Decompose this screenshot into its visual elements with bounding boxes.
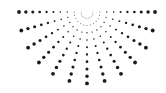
dot xyxy=(71,65,74,68)
ray xyxy=(37,16,83,64)
dot xyxy=(153,10,157,14)
dot xyxy=(73,59,76,62)
dot xyxy=(68,79,72,83)
dot xyxy=(99,12,100,13)
ray xyxy=(91,16,137,64)
dot xyxy=(86,46,88,48)
dot xyxy=(93,12,94,13)
dot xyxy=(103,42,105,44)
dot xyxy=(106,11,107,12)
dot xyxy=(62,36,64,38)
dot xyxy=(90,25,91,26)
dot xyxy=(83,25,84,26)
dot xyxy=(121,32,123,34)
dot xyxy=(103,79,107,83)
dot xyxy=(75,18,76,19)
dot xyxy=(82,16,83,17)
dot xyxy=(100,26,101,27)
ray xyxy=(19,13,81,32)
dot xyxy=(115,29,117,31)
dot xyxy=(69,22,70,23)
dot xyxy=(100,65,103,68)
dot xyxy=(58,60,61,63)
dot xyxy=(81,31,82,32)
dot xyxy=(75,52,77,54)
radial-dot-sunburst-graphic xyxy=(0,0,166,93)
dot xyxy=(85,18,86,19)
dot xyxy=(138,42,141,45)
dot xyxy=(113,60,116,63)
dot xyxy=(96,21,97,22)
dot xyxy=(66,48,68,50)
dot xyxy=(99,15,100,16)
dot xyxy=(126,11,128,13)
dot xyxy=(17,10,21,14)
dot xyxy=(146,10,149,13)
dot xyxy=(42,56,45,59)
ray xyxy=(92,15,148,50)
dot xyxy=(87,25,88,26)
dot xyxy=(138,25,141,28)
dot xyxy=(69,72,72,75)
dot xyxy=(105,17,106,18)
dot xyxy=(129,56,132,59)
dot xyxy=(84,17,85,18)
dot xyxy=(105,31,107,33)
dot xyxy=(144,46,148,50)
dot xyxy=(69,42,71,44)
dot xyxy=(119,46,122,49)
dot xyxy=(100,35,102,37)
dot xyxy=(60,18,62,20)
dot xyxy=(125,22,127,24)
ray xyxy=(93,10,157,14)
ray xyxy=(68,18,86,83)
dot xyxy=(31,10,34,13)
dot xyxy=(96,29,97,30)
dot xyxy=(67,11,68,12)
dot xyxy=(45,36,48,39)
ray xyxy=(92,13,154,32)
ray xyxy=(26,15,82,50)
dot xyxy=(86,39,88,41)
dot xyxy=(37,61,41,65)
dot xyxy=(47,51,50,54)
dot xyxy=(103,22,104,23)
dot xyxy=(110,36,112,38)
dot xyxy=(98,59,101,62)
dot xyxy=(40,24,43,27)
dot xyxy=(86,32,87,33)
dot xyxy=(77,21,78,22)
dot xyxy=(85,74,88,77)
dot xyxy=(81,13,82,14)
dot xyxy=(51,72,55,76)
dot xyxy=(120,11,122,13)
dot xyxy=(96,52,98,54)
dot xyxy=(52,11,54,13)
dot xyxy=(101,72,104,75)
dot xyxy=(26,46,30,50)
dot xyxy=(114,41,116,43)
dot xyxy=(63,25,65,27)
ray xyxy=(85,18,89,85)
dot xyxy=(131,24,134,27)
ray xyxy=(17,10,81,14)
dot xyxy=(72,26,73,27)
dot xyxy=(90,17,91,18)
dot xyxy=(109,54,112,57)
dot xyxy=(54,20,56,22)
dot xyxy=(73,35,75,37)
dot xyxy=(109,25,111,27)
dot xyxy=(62,54,65,57)
dot xyxy=(67,17,68,18)
dot xyxy=(140,10,143,13)
dot xyxy=(113,11,115,13)
dot xyxy=(106,48,108,50)
dot xyxy=(86,60,89,63)
dot xyxy=(52,46,55,49)
dot xyxy=(45,11,47,13)
dot xyxy=(47,22,49,24)
dot xyxy=(116,66,119,69)
dot xyxy=(33,25,36,28)
dot xyxy=(80,23,81,24)
dot xyxy=(92,13,93,14)
